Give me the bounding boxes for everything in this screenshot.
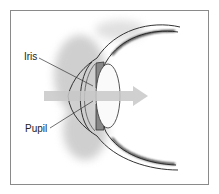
eye-diagram — [0, 0, 219, 194]
sclera-shadow-bottom — [112, 138, 175, 164]
pupil-label: Pupil — [25, 124, 47, 134]
iris-label: Iris — [24, 52, 37, 62]
